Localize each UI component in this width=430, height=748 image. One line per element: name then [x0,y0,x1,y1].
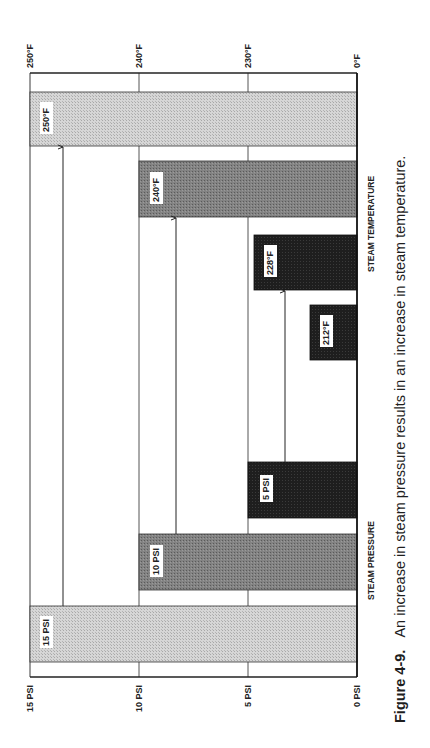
bar-label-15psi: 15 PSI [41,619,51,646]
tick-0psi: 0 PSI [352,685,362,707]
tick-5psi: 5 PSI [243,685,253,707]
tick-15psi: 15 PSI [25,685,35,712]
group-label-steam-temperature: STEAM TEMPERATURE [366,176,376,272]
bar-250f [30,92,357,146]
steam-chart [0,0,430,748]
bar-15psi [30,606,357,662]
bar-label-5psi: 5 PSI [261,478,271,500]
caption-text: An increase in steam pressure results in… [392,156,408,638]
bar-label-10psi: 10 PSI [151,548,161,575]
tick-10psi: 10 PSI [134,685,144,712]
tick-230f: 230°F [243,44,253,68]
figure-caption: Figure 4-9. An increase in steam pressur… [392,156,408,723]
bar-label-250f: 250°F [41,108,51,132]
bar-label-228f: 228°F [265,251,275,275]
tick-0f: 0°F [352,54,362,68]
group-label-steam-pressure: STEAM PRESSURE [366,521,376,600]
bar-240f [139,161,357,217]
tick-250f: 250°F [25,44,35,68]
bar-212f [310,305,357,360]
tick-240f: 240°F [134,44,144,68]
bar-10psi [139,534,357,590]
figure-number: Figure 4-9. [392,650,408,723]
bar-label-212f: 212°F [321,321,331,345]
bar-label-240f: 240°F [151,178,161,202]
